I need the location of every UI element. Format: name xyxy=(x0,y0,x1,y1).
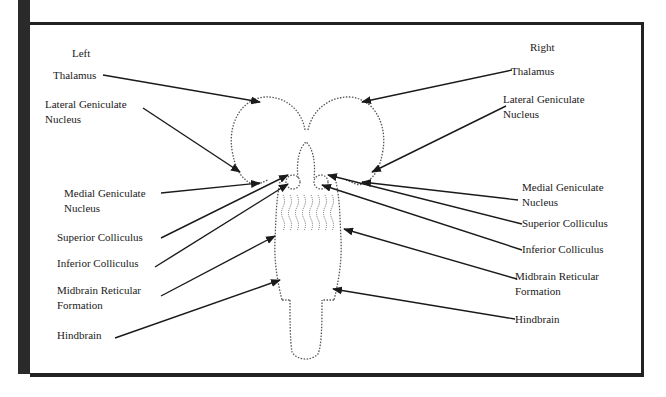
right-label-superior-colliculus: Superior Colliculus xyxy=(522,216,608,231)
left-label-inferior-colliculus: Inferior Colliculus xyxy=(57,256,139,271)
diagram-canvas: Left Right Thalamus Lateral Geniculate N… xyxy=(0,0,666,397)
left-label-midbrain-reticular-formation: Midbrain Reticular Formation xyxy=(57,283,141,313)
left-side-header: Left xyxy=(72,46,90,61)
right-label-inferior-colliculus: Inferior Colliculus xyxy=(522,242,604,257)
right-pointer-arrows xyxy=(322,70,522,319)
right-label-thalamus: Thalamus xyxy=(511,64,554,79)
reticular-formation-texture xyxy=(282,195,334,231)
left-label-lateral-geniculate-nucleus: Lateral Geniculate Nucleus xyxy=(45,97,127,127)
left-label-hindbrain: Hindbrain xyxy=(57,328,102,343)
right-label-hindbrain: Hindbrain xyxy=(515,312,560,327)
brain-outline xyxy=(231,97,384,359)
left-label-medial-geniculate-nucleus: Medial Geniculate Nucleus xyxy=(64,186,146,216)
right-label-midbrain-reticular-formation: Midbrain Reticular Formation xyxy=(515,269,599,299)
left-label-superior-colliculus: Superior Colliculus xyxy=(57,230,143,245)
left-label-thalamus: Thalamus xyxy=(53,68,96,83)
right-label-medial-geniculate-nucleus: Medial Geniculate Nucleus xyxy=(522,180,604,210)
right-side-header: Right xyxy=(530,40,554,55)
right-label-lateral-geniculate-nucleus: Lateral Geniculate Nucleus xyxy=(503,92,585,122)
